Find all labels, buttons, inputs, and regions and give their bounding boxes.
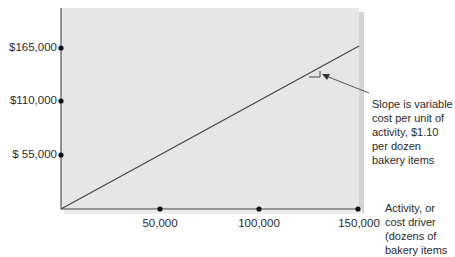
x-label-150000: 150,000 (338, 217, 380, 229)
y-tick-165000 (58, 45, 63, 50)
y-tick-55000 (58, 152, 63, 157)
y-tick-110000 (58, 98, 63, 103)
y-label-55000: $ 55,000 (12, 148, 57, 160)
x-label-50000: 50,000 (142, 217, 177, 229)
variable-cost-line (61, 46, 359, 209)
x-tick-150000 (355, 206, 360, 211)
annotation-arrow-line (326, 76, 369, 93)
x-tick-100000 (256, 206, 261, 211)
x-label-100000: 100,000 (238, 217, 280, 229)
y-label-165000: $165,000 (9, 41, 57, 53)
x-axis-title: Activity, or cost driver (dozens of bake… (385, 201, 455, 257)
slope-annotation: Slope is variable cost per unit of activ… (372, 97, 454, 167)
y-label-110000: $110,000 (10, 94, 57, 106)
x-tick-50000 (157, 206, 162, 211)
